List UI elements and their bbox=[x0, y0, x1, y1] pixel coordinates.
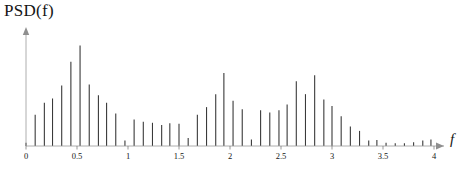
x-tick-label: 0 bbox=[24, 151, 28, 161]
x-axis-arrowhead bbox=[436, 143, 444, 150]
x-tick-label: 4 bbox=[432, 151, 437, 161]
x-axis-label: f bbox=[450, 131, 454, 148]
x-tick-label: 2.5 bbox=[276, 151, 287, 161]
x-tick-label: 1 bbox=[126, 151, 130, 161]
x-tick-label: 3.5 bbox=[378, 151, 389, 161]
x-axis-ticks bbox=[26, 146, 434, 150]
x-tick-label: 3 bbox=[330, 151, 334, 161]
bar-series bbox=[26, 46, 431, 146]
plot-area: 00.511.522.533.54 bbox=[0, 0, 471, 170]
x-tick-label: 0.5 bbox=[72, 151, 83, 161]
x-axis-tick-labels: 00.511.522.533.54 bbox=[24, 151, 437, 161]
x-tick-label: 1.5 bbox=[174, 151, 185, 161]
x-tick-label: 2 bbox=[228, 151, 232, 161]
y-axis-arrowhead bbox=[23, 27, 29, 35]
psd-spectrum-figure: PSD(f) 00.511.522.533.54 f bbox=[0, 0, 471, 170]
